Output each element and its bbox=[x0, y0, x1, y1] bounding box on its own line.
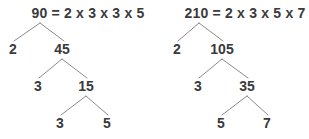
tree-edge bbox=[222, 59, 248, 78]
tree-node-3: 3 bbox=[34, 79, 42, 93]
tree-edge bbox=[222, 96, 247, 115]
tree-edge bbox=[61, 96, 86, 115]
tree-node-2: 2 bbox=[9, 42, 17, 56]
tree-edge bbox=[62, 59, 87, 78]
tree-edge bbox=[40, 23, 64, 41]
tree-edge bbox=[178, 23, 199, 41]
tree-node-3: 3 bbox=[56, 116, 64, 130]
tree-edge bbox=[14, 23, 40, 41]
tree-edge bbox=[86, 96, 108, 115]
factorization-equation: 90 = 2 x 3 x 3 x 5 bbox=[32, 6, 145, 20]
tree-node-7: 7 bbox=[263, 116, 271, 130]
tree-node-15: 15 bbox=[78, 79, 94, 93]
tree-node-2: 2 bbox=[173, 42, 181, 56]
tree-node-3: 3 bbox=[194, 79, 202, 93]
tree-node-35: 35 bbox=[239, 79, 255, 93]
tree-edge bbox=[247, 96, 268, 115]
tree-node-5: 5 bbox=[217, 116, 225, 130]
factorization-equation: 210 = 2 x 3 x 5 x 7 bbox=[185, 6, 306, 20]
tree-node-105: 105 bbox=[210, 42, 233, 56]
factor-tree-diagram: 90 = 2 x 3 x 3 x 524531535210 = 2 x 3 x … bbox=[0, 0, 309, 139]
tree-edge bbox=[199, 59, 222, 78]
tree-edge bbox=[39, 59, 62, 78]
tree-edge bbox=[199, 23, 223, 41]
tree-node-5: 5 bbox=[103, 116, 111, 130]
tree-node-45: 45 bbox=[54, 42, 70, 56]
